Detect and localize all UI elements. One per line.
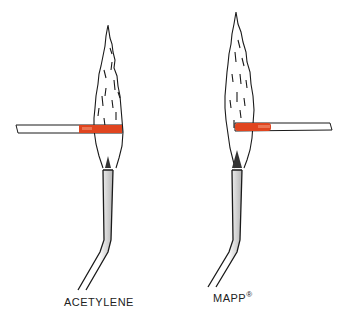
acetylene-label: ACETYLENE — [64, 296, 134, 308]
torch-comparison-illustration — [0, 0, 344, 315]
mapp-label-text: MAPP — [213, 292, 246, 304]
mapp-nozzle — [208, 170, 242, 287]
acetylene-nozzle — [78, 170, 113, 290]
acetylene-label-text: ACETYLENE — [64, 296, 134, 308]
mapp-flame-icon — [225, 12, 254, 168]
mapp-rod — [235, 123, 332, 131]
acetylene-flame-icon — [94, 25, 123, 168]
acetylene-torch — [16, 25, 123, 290]
acetylene-rod — [16, 125, 122, 133]
mapp-label: MAPP® — [213, 290, 253, 304]
mapp-torch — [208, 12, 332, 287]
registered-mark: ® — [246, 290, 252, 299]
